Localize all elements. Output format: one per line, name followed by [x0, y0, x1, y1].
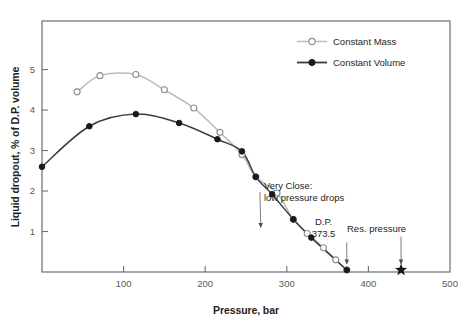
data-point-constant-volume — [133, 111, 139, 117]
data-point-constant-mass — [333, 257, 339, 263]
annotation-dew-point: D.P.373.5 — [312, 216, 347, 264]
x-axis-title: Pressure, bar — [213, 304, 279, 316]
y-tick-label: 5 — [30, 64, 35, 75]
x-tick-label: 400 — [360, 278, 376, 289]
legend-item-constant-mass[interactable]: Constant Mass — [297, 36, 397, 47]
x-axis-ticks: 100200300400500 — [116, 266, 458, 289]
reservoir-pressure-star-icon — [395, 264, 407, 276]
data-point-constant-mass — [133, 71, 139, 77]
data-point-constant-volume — [176, 120, 182, 126]
data-point-constant-volume — [215, 136, 221, 142]
data-point-constant-volume — [39, 164, 45, 170]
y-axis-ticks: 12345 — [30, 64, 48, 237]
annotation-text: low pressure drops — [264, 192, 345, 203]
legend-item-constant-volume[interactable]: Constant Volume — [297, 57, 405, 68]
series-line-constant-mass — [77, 73, 347, 270]
annotation-text: Very Close: — [264, 180, 313, 191]
x-tick-label: 200 — [197, 278, 213, 289]
x-tick-label: 500 — [442, 278, 458, 289]
liquid-dropout-chart: 12345 100200300400500 Very Close:low pre… — [0, 0, 468, 331]
x-tick-label: 100 — [116, 278, 132, 289]
data-point-constant-volume — [253, 174, 259, 180]
chart-legend: Constant Mass Constant Volume — [297, 36, 405, 68]
y-tick-label: 1 — [30, 226, 35, 237]
data-point-constant-mass — [191, 105, 197, 111]
data-point-constant-mass — [161, 87, 167, 93]
data-point-constant-volume — [291, 217, 297, 223]
legend-label-constant-mass: Constant Mass — [333, 36, 397, 47]
data-point-constant-mass — [74, 89, 80, 95]
annotation-text: D.P. — [315, 216, 332, 227]
data-point-constant-mass — [97, 73, 103, 79]
data-point-constant-volume — [344, 267, 350, 273]
special-markers — [395, 264, 407, 276]
annotation-leader-line — [260, 192, 261, 228]
data-point-constant-volume — [239, 149, 245, 155]
chart-annotations: Very Close:low pressure dropsD.P.373.5Re… — [260, 180, 406, 264]
annotation-text: Res. pressure — [347, 223, 406, 234]
y-axis-title: Liquid dropout, % of D.P. volume — [9, 66, 21, 227]
annotation-res-pressure: Res. pressure — [347, 223, 406, 264]
legend-marker-open-circle — [309, 38, 315, 44]
legend-marker-filled-circle — [309, 59, 315, 65]
legend-label-constant-volume: Constant Volume — [333, 57, 405, 68]
y-tick-label: 3 — [30, 145, 35, 156]
data-point-constant-volume — [87, 123, 93, 129]
series-points-constant-mass — [74, 71, 350, 273]
data-point-constant-mass — [217, 129, 223, 135]
chart-container: 12345 100200300400500 Very Close:low pre… — [0, 0, 468, 331]
y-tick-label: 2 — [30, 185, 35, 196]
x-tick-label: 300 — [279, 278, 295, 289]
data-point-constant-mass — [321, 245, 327, 251]
annotation-text: 373.5 — [312, 228, 336, 239]
y-tick-label: 4 — [30, 104, 35, 115]
